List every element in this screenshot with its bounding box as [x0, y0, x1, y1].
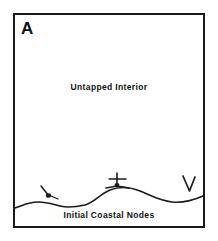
untapped-interior-label: Untapped Interior — [13, 83, 205, 92]
initial-coastal-nodes-label: Initial Coastal Nodes — [13, 211, 205, 220]
panel-frame — [13, 13, 205, 228]
panel-letter: A — [21, 20, 33, 37]
figure-root: A Untapped Interior Initial Coastal Node… — [0, 0, 218, 241]
